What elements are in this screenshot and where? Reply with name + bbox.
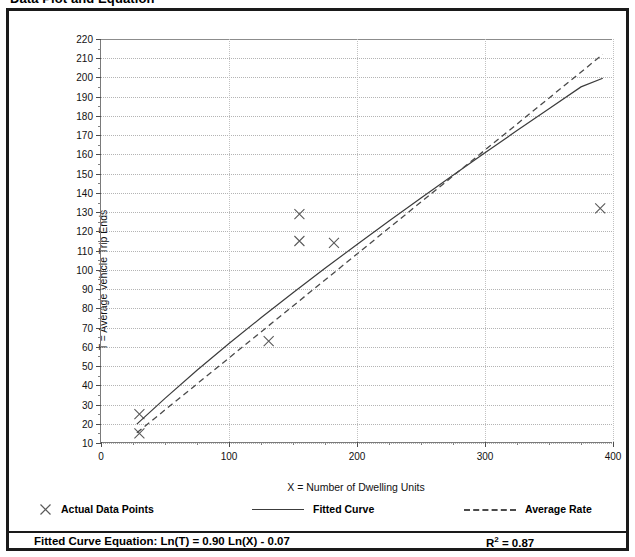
r2-number: = 0.87 [499, 537, 535, 549]
y-tick-minor [98, 337, 101, 338]
legend-item-fitted-curve[interactable]: Fitted Curve [252, 503, 374, 515]
y-tick [96, 366, 101, 367]
y-tick-minor [98, 87, 101, 88]
data-point-marker [264, 336, 274, 346]
x-marker-icon [39, 503, 52, 515]
y-tick [96, 193, 101, 194]
y-tick-minor [98, 68, 101, 69]
x-tick-minor [197, 442, 198, 445]
data-point-marker [134, 409, 144, 419]
y-tick [96, 154, 101, 155]
legend-item-average-rate[interactable]: Average Rate [464, 503, 592, 515]
y-tick-minor [98, 414, 101, 415]
x-tick-minor [325, 442, 326, 445]
page-title: Data Plot and Equation [10, 0, 154, 6]
r-squared-value: R2 = 0.87 [486, 535, 534, 549]
fitted-curve-equation: Fitted Curve Equation: Ln(T) = 0.90 Ln(X… [34, 535, 290, 547]
y-tick-label: 200 [63, 72, 93, 83]
y-tick-label: 210 [63, 53, 93, 64]
y-tick-minor [98, 395, 101, 396]
y-tick-minor [98, 241, 101, 242]
y-tick-label: 220 [63, 34, 93, 45]
series-points-actual-data-points [134, 203, 605, 438]
y-tick [96, 77, 101, 78]
legend-label-fitted-curve: Fitted Curve [313, 503, 374, 515]
y-tick [96, 405, 101, 406]
x-tick-minor [421, 442, 422, 445]
data-point-marker [134, 428, 144, 438]
y-tick-label: 140 [63, 187, 93, 198]
y-tick [96, 39, 101, 40]
y-tick-minor [98, 376, 101, 377]
gridline-vertical [613, 39, 614, 442]
y-tick-label: 40 [63, 380, 93, 391]
equation-divider [9, 531, 626, 533]
x-tick [357, 442, 358, 447]
y-tick-minor [98, 126, 101, 127]
y-tick-label: 20 [63, 418, 93, 429]
x-tick-minor [549, 442, 550, 445]
x-tick-label: 400 [605, 451, 622, 462]
x-tick-label: 0 [98, 451, 104, 462]
y-tick [96, 135, 101, 136]
y-tick-label: 50 [63, 361, 93, 372]
y-tick [96, 58, 101, 59]
y-tick-label: 150 [63, 168, 93, 179]
data-point-marker [329, 238, 339, 248]
y-tick [96, 231, 101, 232]
y-tick [96, 174, 101, 175]
data-point-marker [294, 209, 304, 219]
y-tick [96, 328, 101, 329]
y-tick-minor [98, 279, 101, 280]
y-tick-label: 30 [63, 399, 93, 410]
gridline-vertical [357, 39, 358, 442]
series-line-average-rate [137, 54, 603, 432]
y-tick-label: 130 [63, 207, 93, 218]
y-tick-label: 90 [63, 284, 93, 295]
x-tick [229, 442, 230, 447]
legend-label-average-rate: Average Rate [525, 503, 592, 515]
x-tick-minor [261, 442, 262, 445]
y-tick-minor [98, 299, 101, 300]
y-tick [96, 212, 101, 213]
legend-item-actual-data-points[interactable]: Actual Data Points [39, 503, 154, 515]
y-tick-label: 60 [63, 341, 93, 352]
y-tick-label: 10 [63, 438, 93, 449]
x-tick-label: 200 [349, 451, 366, 462]
y-tick-label: 80 [63, 303, 93, 314]
data-point-marker [294, 236, 304, 246]
x-tick-minor [581, 442, 582, 445]
y-tick-label: 120 [63, 226, 93, 237]
y-tick [96, 270, 101, 271]
y-tick [96, 308, 101, 309]
y-tick-minor [98, 203, 101, 204]
x-tick-minor [389, 442, 390, 445]
x-tick [485, 442, 486, 447]
y-tick-label: 190 [63, 91, 93, 102]
x-tick-minor [517, 442, 518, 445]
gridline-vertical [485, 39, 486, 442]
chart-page: Data Plot and Equation T = Average Vehic… [0, 0, 635, 557]
x-tick-label: 300 [477, 451, 494, 462]
y-tick-minor [98, 222, 101, 223]
y-tick-label: 170 [63, 130, 93, 141]
y-tick [96, 116, 101, 117]
chart-legend: Actual Data Points Fitted Curve Average … [9, 503, 626, 529]
equation-row: Fitted Curve Equation: Ln(T) = 0.90 Ln(X… [9, 534, 626, 554]
y-tick-minor [98, 433, 101, 434]
y-tick-minor [98, 106, 101, 107]
y-tick-label: 160 [63, 149, 93, 160]
x-tick-minor [293, 442, 294, 445]
x-tick-label: 100 [221, 451, 238, 462]
solid-line-icon [252, 503, 304, 515]
y-tick-minor [98, 145, 101, 146]
x-tick [613, 442, 614, 447]
y-tick-minor [98, 49, 101, 50]
x-tick [101, 442, 102, 447]
y-tick [96, 347, 101, 348]
y-tick-minor [98, 164, 101, 165]
y-tick [96, 385, 101, 386]
chart-panel: T = Average Vehicle Trip Ends X = Number… [6, 8, 629, 551]
y-tick-minor [98, 356, 101, 357]
dashed-line-icon [464, 503, 516, 515]
